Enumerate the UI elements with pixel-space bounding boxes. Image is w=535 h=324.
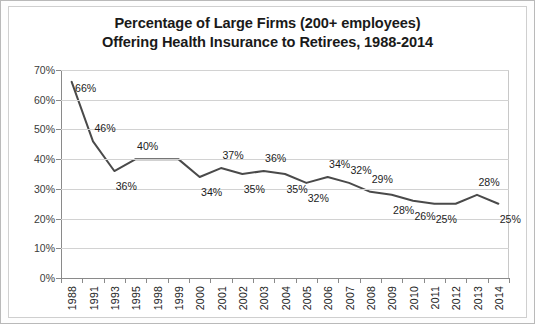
x-tick-label-2008: 2008	[365, 286, 377, 310]
x-tick-mark	[168, 278, 169, 283]
x-tick-mark	[125, 278, 126, 283]
x-tick-mark	[104, 278, 105, 283]
x-tick-mark	[402, 278, 403, 283]
y-tick-label: 50%	[34, 123, 55, 135]
grid-line	[61, 70, 509, 71]
x-tick-label-2012: 2012	[450, 286, 462, 310]
x-tick-label-2007: 2007	[344, 286, 356, 310]
x-tick-label-2003: 2003	[258, 286, 270, 310]
grid-line	[61, 248, 509, 249]
chart-title-line-2: Offering Health Insurance to Retirees, 1…	[9, 33, 526, 52]
y-tick-label: 40%	[34, 153, 55, 165]
chart-title-line-1: Percentage of Large Firms (200+ employee…	[9, 14, 526, 33]
data-label-2005: 32%	[308, 192, 329, 204]
x-tick-label-1995: 1995	[130, 286, 142, 310]
y-tick-label: 10%	[34, 242, 55, 254]
y-tick-label: 70%	[34, 64, 55, 76]
x-tick-mark	[338, 278, 339, 283]
data-label-2002: 35%	[244, 183, 265, 195]
x-tick-label-2006: 2006	[322, 286, 334, 310]
data-label-2003: 36%	[265, 152, 286, 164]
x-tick-mark	[360, 278, 361, 283]
data-label-2014: 25%	[500, 213, 521, 225]
x-tick-mark	[232, 278, 233, 283]
grid-line	[61, 100, 509, 101]
y-tick-mark	[56, 248, 61, 249]
x-axis-line	[61, 278, 509, 279]
y-tick-label: 60%	[34, 94, 55, 106]
x-tick-mark	[488, 278, 489, 283]
x-tick-label-1998: 1998	[152, 286, 164, 310]
x-tick-mark	[466, 278, 467, 283]
x-tick-label-2002: 2002	[237, 286, 249, 310]
data-label-2009: 28%	[393, 204, 414, 216]
data-label-2010: 26%	[414, 210, 435, 222]
x-tick-label-2005: 2005	[301, 286, 313, 310]
x-tick-mark	[253, 278, 254, 283]
y-tick-mark	[56, 219, 61, 220]
plot-area	[61, 70, 509, 278]
line-series	[61, 70, 509, 278]
y-tick-mark	[56, 100, 61, 101]
x-tick-label-2013: 2013	[472, 286, 484, 310]
x-tick-label-2014: 2014	[493, 286, 505, 310]
data-label-1988: 66%	[75, 82, 96, 94]
x-tick-label-2011: 2011	[429, 286, 441, 309]
data-label-2008: 29%	[372, 173, 393, 185]
chart-plot-frame: Percentage of Large Firms (200+ employee…	[8, 6, 527, 318]
x-tick-mark	[210, 278, 211, 283]
data-label-1993: 36%	[116, 180, 137, 192]
data-label-1991: 46%	[94, 122, 115, 134]
chart-title: Percentage of Large Firms (200+ employee…	[9, 14, 526, 52]
x-tick-label-2001: 2001	[216, 286, 228, 310]
y-tick-mark	[56, 159, 61, 160]
y-tick-mark	[56, 189, 61, 190]
y-tick-label: 30%	[34, 183, 55, 195]
y-tick-label: 0%	[40, 272, 55, 284]
x-tick-mark	[296, 278, 297, 283]
x-tick-mark	[509, 278, 510, 283]
data-label-2006: 34%	[329, 158, 350, 170]
x-tick-mark	[274, 278, 275, 283]
y-tick-mark	[56, 129, 61, 130]
grid-line	[61, 129, 509, 130]
data-label-2001: 37%	[222, 149, 243, 161]
x-tick-label-2010: 2010	[408, 286, 420, 310]
x-tick-label-2004: 2004	[280, 286, 292, 310]
data-label-2000: 34%	[201, 186, 222, 198]
x-tick-mark	[424, 278, 425, 283]
chart-container: Percentage of Large Firms (200+ employee…	[0, 0, 535, 324]
x-tick-mark	[82, 278, 83, 283]
x-tick-label-2009: 2009	[386, 286, 398, 310]
x-tick-label-1993: 1993	[109, 286, 121, 310]
y-axis: 0%10%20%30%40%50%60%70%	[17, 70, 55, 278]
y-tick-mark	[56, 70, 61, 71]
x-tick-label-1991: 1991	[88, 286, 100, 310]
data-label-2007: 32%	[350, 164, 371, 176]
x-tick-mark	[61, 278, 62, 283]
data-label-2004: 35%	[286, 183, 307, 195]
x-tick-mark	[381, 278, 382, 283]
x-tick-label-1988: 1988	[66, 286, 78, 310]
x-tick-mark	[146, 278, 147, 283]
x-tick-label-1999: 1999	[173, 286, 185, 310]
x-tick-label-2000: 2000	[194, 286, 206, 310]
x-tick-mark	[189, 278, 190, 283]
y-tick-label: 20%	[34, 213, 55, 225]
data-label-1995: 40%	[137, 140, 158, 152]
data-label-2011: 25%	[436, 213, 457, 225]
x-tick-mark	[445, 278, 446, 283]
x-tick-mark	[317, 278, 318, 283]
data-label-2013: 28%	[478, 176, 499, 188]
